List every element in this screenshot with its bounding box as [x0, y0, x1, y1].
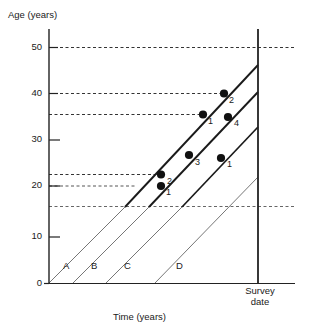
- data-point-c-1[interactable]: [217, 154, 225, 162]
- y-tick-label-0: 0: [20, 278, 42, 289]
- data-point-label-c-1: 1: [227, 159, 232, 169]
- cohort-line-b-thin: [73, 207, 149, 283]
- data-point-label-b-1: 2: [167, 176, 172, 186]
- data-point-b-3[interactable]: [224, 113, 232, 121]
- data-point-label-b-3: 4: [234, 118, 239, 128]
- data-point-b-2[interactable]: [185, 151, 193, 159]
- y-tick-label-50: 50: [20, 42, 42, 53]
- y-tick-label-10: 10: [20, 231, 42, 242]
- data-point-label-a-1: 1: [166, 187, 171, 197]
- data-point-a-3[interactable]: [220, 89, 228, 97]
- cohort-line-c-thin: [106, 207, 182, 283]
- cohort-label-c: C: [124, 261, 131, 272]
- x-axis-title: Time (years): [113, 312, 166, 323]
- cohort-label-a: A: [63, 261, 69, 272]
- data-point-label-a-2: 1: [208, 116, 213, 126]
- cohort-line-a-bold: [125, 65, 258, 207]
- y-tick-marks-group: [44, 48, 60, 284]
- data-point-a-2[interactable]: [199, 110, 207, 118]
- survey-date-label: Survey date: [238, 286, 282, 308]
- survey-date-label-line2: date: [251, 296, 270, 307]
- cohort-line-a-thin: [49, 207, 125, 283]
- data-point-label-b-2: 3: [195, 157, 200, 167]
- data-point-a-1[interactable]: [157, 182, 165, 190]
- survey-date-label-line1: Survey: [245, 285, 275, 296]
- data-point-label-a-3: 2: [229, 95, 234, 105]
- y-tick-label-40: 40: [20, 88, 42, 99]
- lexis-diagram-figure: Age (years) Time (years) Survey date 0 1…: [0, 0, 309, 335]
- cohort-label-d: D: [176, 261, 183, 272]
- y-axis-title: Age (years): [8, 10, 57, 21]
- cohort-line-c-bold: [182, 127, 258, 207]
- y-tick-label-20: 20: [20, 180, 42, 191]
- data-point-b-1[interactable]: [157, 170, 165, 178]
- cohort-label-b: B: [91, 261, 97, 272]
- y-tick-label-30: 30: [20, 134, 42, 145]
